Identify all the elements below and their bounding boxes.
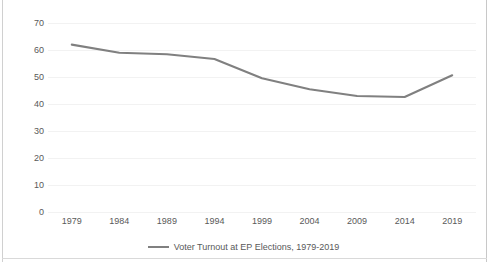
y-axis-tick-label: 10 [4, 180, 44, 190]
plot-area [48, 23, 476, 212]
chart-border-right [486, 0, 487, 262]
x-axis-tick-label: 2004 [300, 216, 320, 226]
x-axis-tick-label: 2009 [347, 216, 367, 226]
x-axis: 197919841989199419992004200920142019 [48, 216, 476, 230]
x-axis-tick-label: 2014 [395, 216, 415, 226]
series-line-voter-turnout [72, 45, 452, 97]
chart-border-bottom [2, 258, 487, 259]
y-axis-tick-label: 70 [4, 18, 44, 28]
x-axis-tick-label: 2019 [442, 216, 462, 226]
legend-line-swatch-icon [148, 246, 169, 248]
x-axis-tick-label: 1984 [109, 216, 129, 226]
y-axis-tick-label: 60 [4, 45, 44, 55]
gridline [48, 212, 476, 213]
x-axis-tick-label: 1999 [252, 216, 272, 226]
y-axis: 010203040506070 [0, 23, 44, 212]
legend-label: Voter Turnout at EP Elections, 1979-2019 [174, 242, 339, 252]
y-axis-tick-label: 40 [4, 99, 44, 109]
y-axis-tick-label: 20 [4, 153, 44, 163]
y-axis-tick-label: 30 [4, 126, 44, 136]
series-line-chart [48, 23, 476, 212]
chart-legend: Voter Turnout at EP Elections, 1979-2019 [0, 242, 487, 252]
x-axis-tick-label: 1989 [157, 216, 177, 226]
y-axis-tick-label: 0 [4, 207, 44, 217]
x-axis-tick-label: 1979 [62, 216, 82, 226]
y-axis-tick-label: 50 [4, 72, 44, 82]
x-axis-tick-label: 1994 [204, 216, 224, 226]
chart-container: 010203040506070 197919841989199419992004… [0, 0, 501, 266]
